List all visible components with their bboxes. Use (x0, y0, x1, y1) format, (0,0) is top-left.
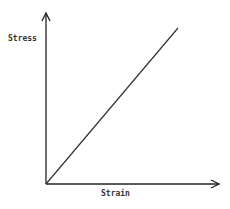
x-axis-label: Strain (101, 189, 130, 198)
y-axis-label: Stress (8, 34, 37, 43)
stress-strain-line (46, 28, 178, 184)
stress-strain-diagram (0, 0, 230, 209)
